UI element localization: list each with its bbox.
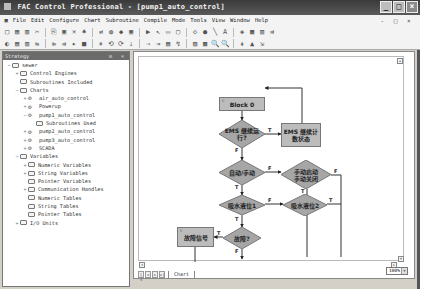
toolbar-button-icon[interactable]: ⇥ [154, 40, 162, 48]
minimize-button[interactable]: _ [380, 1, 392, 13]
chevron-down-icon[interactable]: ▾ [401, 268, 407, 274]
toolbar-button-icon[interactable]: ⇆ [33, 40, 41, 48]
menu-configure[interactable]: Configure [47, 15, 82, 26]
tree-item[interactable]: −Charts [3, 86, 129, 94]
copy-icon[interactable]: ⎘ [50, 28, 58, 36]
save-icon[interactable]: ▥ [23, 28, 31, 36]
oip-block-icon[interactable]: ▢ [174, 28, 182, 36]
tab-nav-prev[interactable]: ◂ [145, 271, 151, 278]
tree-item[interactable]: +⚙air_auto_control [3, 94, 129, 102]
mdi-controls[interactable]: - □ × [378, 15, 416, 26]
new-icon[interactable]: ▢ [3, 28, 11, 36]
tree-item[interactable]: Pointer Tables [3, 210, 129, 218]
toolbar-button-icon[interactable]: ▲ [248, 40, 256, 48]
open-icon[interactable]: ▤ [13, 28, 21, 36]
replace-icon[interactable]: ⇄ [97, 28, 105, 36]
toolbar-button-icon[interactable]: ▤ [13, 40, 21, 48]
toolbar-button-icon[interactable]: ⏸ [97, 40, 105, 48]
tree-item[interactable]: −sewer [3, 61, 129, 69]
panel-buttons[interactable]: ⊡ × [109, 52, 127, 60]
flowchart-canvas[interactable]: 0 Block 0 EMS 继续运行? EMS 继续计数状态 自动/手动 手动启… [138, 56, 404, 261]
tree-item[interactable]: +Control Engines [3, 69, 129, 77]
tree-item[interactable]: +⚙pump2_auto_control [3, 127, 129, 135]
paste-icon[interactable]: ▣ [60, 28, 68, 36]
run-icon[interactable]: ▶ [144, 28, 152, 36]
toolbar-button-icon[interactable]: ▥ [23, 40, 31, 48]
condition-icon[interactable]: ◇ [191, 28, 199, 36]
toolbar-button-icon[interactable]: ▩ [201, 40, 209, 48]
menu-view[interactable]: View [209, 15, 227, 26]
toolbar-button-icon[interactable]: ⇉ [60, 40, 68, 48]
delete-icon[interactable]: ✕ [70, 28, 78, 36]
tree-item[interactable]: +String Variables [3, 169, 129, 177]
tab-nav-next[interactable]: ▸ [152, 271, 158, 278]
snap-icon[interactable]: ⇉ [268, 28, 276, 36]
toolbar-button-icon[interactable]: ⇲ [258, 40, 266, 48]
tree-item[interactable]: +Numeric Variables [3, 161, 129, 169]
scroll-down-button[interactable]: ▾ [398, 256, 404, 262]
download-icon[interactable]: ◆ [117, 28, 125, 36]
condition-manual-start-stop[interactable]: 手动启动手动关闭 [281, 160, 331, 189]
color-icon[interactable]: ◈ [238, 28, 246, 36]
menu-edit[interactable]: Edit [29, 15, 47, 26]
toolbar-button-icon[interactable]: ⇢ [144, 40, 152, 48]
tree-item[interactable]: +⚙Powerup [3, 102, 129, 110]
menu-subroutine[interactable]: Subroutine [103, 15, 141, 26]
tree-item[interactable]: +Communication Handles [3, 185, 129, 193]
mdi-doc-icon[interactable]: ▦ [2, 15, 10, 26]
toolbar-button-icon[interactable]: ◐ [3, 40, 11, 48]
tab-nav-last[interactable]: ▸| [159, 271, 165, 278]
text-icon[interactable]: A [221, 28, 229, 36]
tab-chart[interactable]: Chart [168, 271, 195, 279]
menu-tools[interactable]: Tools [188, 15, 210, 26]
action-block-block0[interactable]: 0 Block 0 [219, 97, 265, 111]
toolbar-button-icon[interactable]: ■ [80, 40, 88, 48]
toolbar-button-icon[interactable]: ▸ [70, 40, 78, 48]
tab-nav-first[interactable]: |◂ [138, 271, 144, 278]
toolbar-button-icon[interactable]: ⟳ [117, 40, 125, 48]
tree-item[interactable]: String Tables [3, 202, 129, 210]
toolbar-button-icon[interactable]: ▨ [191, 40, 199, 48]
menu-help[interactable]: Help [252, 15, 270, 26]
connect-icon[interactable]: ╲ [211, 28, 219, 36]
compile-icon[interactable]: ◍ [107, 28, 115, 36]
action-block-icon[interactable]: ▭ [164, 28, 172, 36]
toolbar-button-icon[interactable]: ⇞ [238, 40, 246, 48]
continue-icon[interactable]: ● [201, 28, 209, 36]
toolbar-button-icon[interactable]: ⇇ [50, 40, 58, 48]
maximize-button[interactable]: □ [393, 1, 405, 13]
action-block-fault-signal[interactable]: 5 故障信号 [177, 227, 214, 247]
scroll-left-button[interactable]: ◂ [139, 262, 145, 268]
close-button[interactable]: × [406, 1, 418, 13]
find-icon[interactable]: ♠ [80, 28, 88, 36]
condition-fault[interactable]: 故障? [223, 227, 261, 249]
action-block-ems-record[interactable]: EMS 继续计数状态 [281, 123, 321, 147]
tree-item[interactable]: Pointer Variables [3, 177, 129, 185]
toolbar-button-icon[interactable]: 🔍 [211, 40, 219, 48]
align-icon[interactable]: ▥ [258, 28, 266, 36]
debug-icon[interactable]: ▣ [127, 28, 135, 36]
menu-compile[interactable]: Compile [141, 15, 169, 26]
tree-item[interactable]: Subroutines Included [3, 78, 129, 86]
toolbar-button-icon[interactable]: 🔍 [221, 40, 229, 48]
menu-window[interactable]: Window [228, 15, 253, 26]
tree-item[interactable]: Subroutines Used [3, 119, 129, 127]
menu-chart[interactable]: Chart [82, 15, 104, 26]
toolbar-button-icon[interactable]: ↯ [174, 40, 182, 48]
cut-icon[interactable]: ✂ [33, 28, 41, 36]
condition-ems-running[interactable]: EMS 继续运行? [219, 120, 265, 148]
condition-level-1[interactable]: 吸水液位1 [219, 195, 265, 215]
tree-item[interactable]: +⚙SCADA [3, 144, 129, 152]
select-arrow-icon[interactable]: ↖ [154, 28, 162, 36]
toolbar-button-icon[interactable]: ▤ [164, 40, 172, 48]
grid-icon[interactable]: ▦ [248, 28, 256, 36]
tree-item[interactable]: −Variables [3, 152, 129, 160]
scroll-up-button[interactable]: ▴ [397, 58, 403, 64]
tree-item[interactable]: −⚙pump1_auto_control [3, 111, 129, 119]
condition-level-2[interactable]: 吸水液位2 [283, 194, 327, 216]
tree-item[interactable]: +⚙pump3_auto_control [3, 136, 129, 144]
tree-item[interactable]: Numeric Tables [3, 194, 129, 202]
tree-item[interactable]: +I/O Units [3, 219, 129, 227]
zoom-level-select[interactable]: 100% ▾ [386, 267, 408, 275]
menu-file[interactable]: File [10, 15, 28, 26]
